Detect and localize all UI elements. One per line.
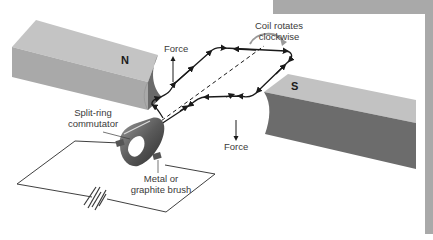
south-magnet (264, 74, 416, 169)
force-arrow-up-icon (171, 56, 176, 82)
force-arrow-down-icon (234, 120, 239, 141)
rotation-label: Coil rotates clockwise (244, 20, 314, 42)
force-label-bottom: Force (224, 141, 248, 152)
north-magnet (12, 20, 162, 110)
north-pole-label: N (121, 54, 129, 66)
battery-icon (84, 187, 106, 210)
brush-label: Metal or graphite brush (127, 173, 195, 195)
force-label-top: Force (164, 43, 188, 54)
commutator-label: Split-ring commutator (63, 107, 123, 129)
south-pole-label: S (291, 80, 298, 92)
